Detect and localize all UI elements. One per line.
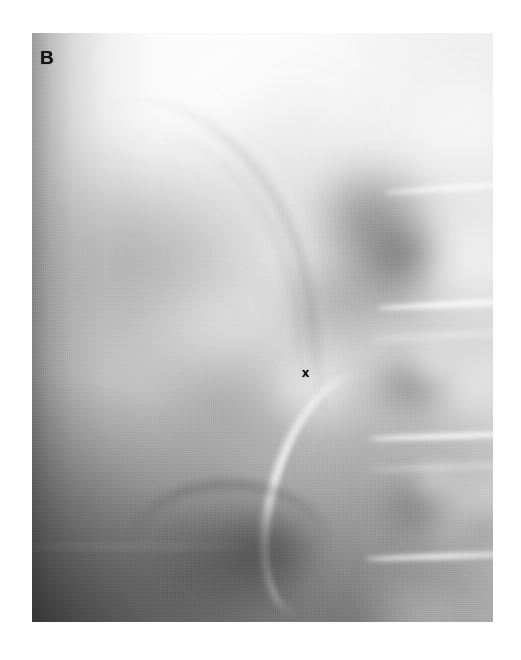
page-background: B x [0,0,521,660]
panel-label: B [40,48,54,67]
radiograph-film: B x [32,33,493,622]
x-marker: x [302,366,309,379]
film-grain-texture [32,33,493,622]
